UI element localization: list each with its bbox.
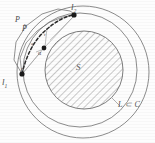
label-segment-t: t [44, 32, 45, 37]
label-endpoint-l2: l2 [71, 3, 76, 14]
label-segment-q: q [31, 41, 34, 46]
inner-hatched-disk [45, 31, 123, 109]
label-path-P-tilde: P̃ [22, 25, 27, 33]
label-outer-region-LC: L ⊂ C [118, 101, 140, 109]
point-l1 [19, 71, 24, 76]
geometry-figure: l2 l1 S L ⊂ C P P̃ α q p t [0, 0, 155, 143]
label-inner-region-S: S [76, 63, 81, 72]
label-path-P: P [15, 16, 20, 24]
label-endpoint-l1: l1 [2, 78, 7, 89]
label-segment-p: p [21, 66, 24, 71]
label-vertex-alpha: α [38, 50, 41, 56]
point-alpha [42, 46, 47, 51]
